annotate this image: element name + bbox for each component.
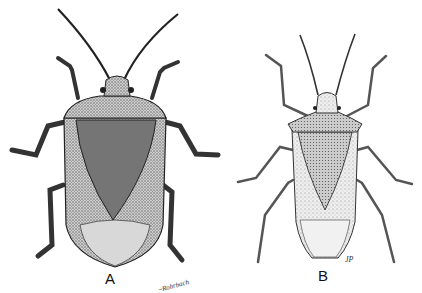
- bug-b-leg-mid-right: [357, 147, 412, 184]
- bug-a-leg-hind-left: [38, 185, 63, 256]
- bug-a-leg-mid-right: [165, 122, 218, 155]
- bug-a-head: [104, 76, 130, 96]
- bug-a-eye-left: [100, 87, 106, 93]
- bug-b-antenna-right: [336, 34, 355, 95]
- bug-b-leg-front-right: [345, 56, 386, 117]
- panel-label-a: A: [105, 271, 115, 286]
- bug-a-antenna-right: [124, 14, 178, 80]
- bug-a-leg-mid-left: [12, 122, 65, 155]
- bug-a-membrane: [80, 220, 150, 266]
- bug-b-eye-left: [313, 106, 317, 110]
- bug-a-leg-front-left: [58, 58, 78, 98]
- figure-stage: A ~Rohrbach B JP: [0, 0, 422, 293]
- bug-a-illustration: [12, 9, 218, 267]
- bug-b-leg-hind-right: [357, 180, 394, 262]
- panel-label-b: B: [318, 268, 328, 283]
- bug-b-eye-right: [337, 106, 341, 110]
- bug-b-leg-hind-left: [258, 180, 293, 262]
- bug-a-leg-front-right: [152, 62, 178, 98]
- bug-a-antenna-left: [58, 9, 110, 80]
- bug-b-head: [316, 93, 338, 114]
- bug-b-leg-front-left: [266, 55, 310, 117]
- bug-b-antenna-left: [300, 35, 318, 95]
- bug-a-leg-hind-right: [163, 185, 182, 260]
- bug-a-eye-right: [128, 87, 134, 93]
- bug-b-illustration: [238, 34, 412, 262]
- artist-signature-b: JP: [345, 255, 353, 264]
- bug-b-leg-mid-left: [238, 147, 293, 182]
